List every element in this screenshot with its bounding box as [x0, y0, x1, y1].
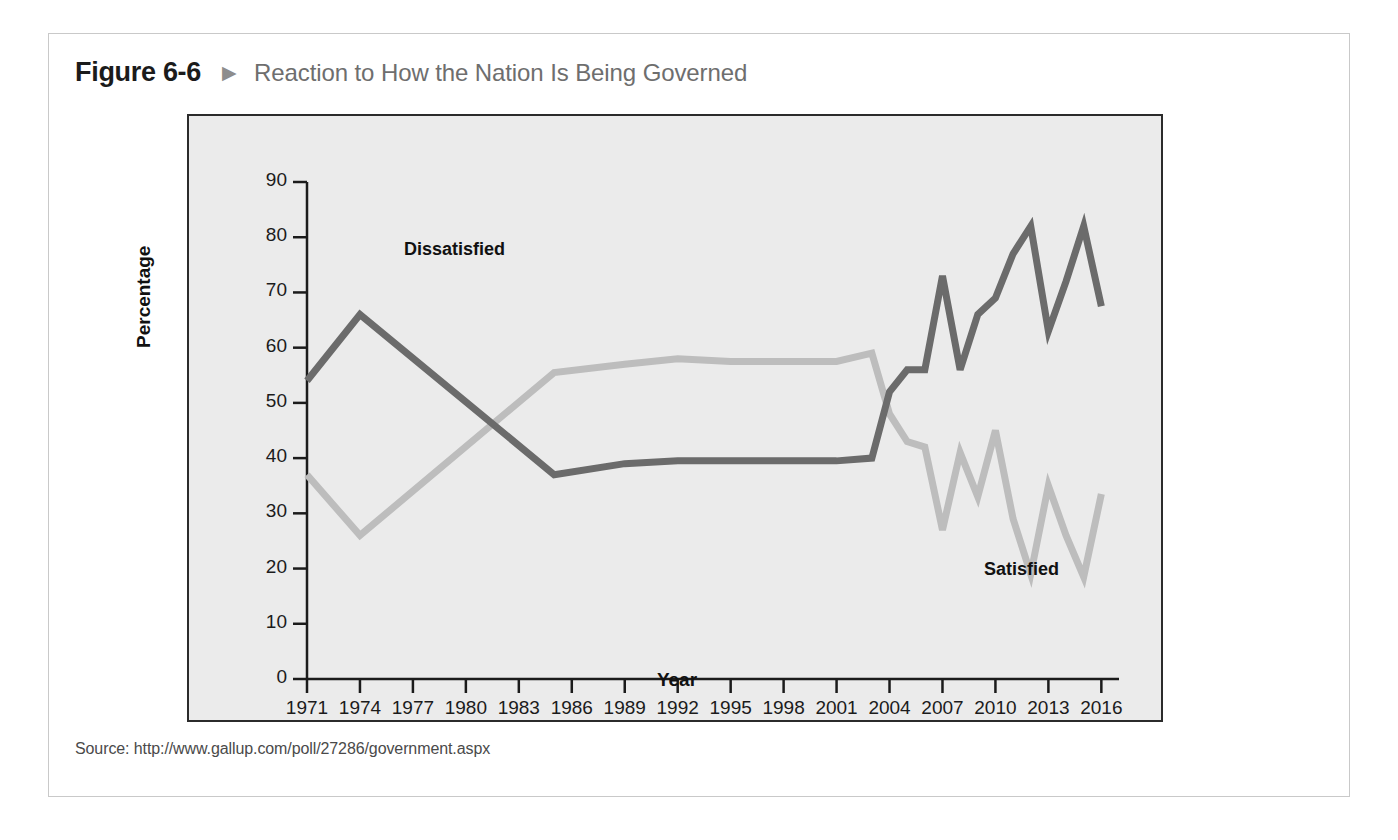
series-label-dissatisfied: Dissatisfied: [404, 239, 505, 260]
x-tick-label: 1992: [648, 697, 708, 719]
series-label-satisfied: Satisfied: [984, 559, 1059, 580]
x-tick-label: 1971: [277, 697, 337, 719]
x-axis-title: Year: [189, 669, 1165, 691]
x-tick-label: 1989: [595, 697, 655, 719]
y-tick-label: 0: [247, 666, 287, 688]
x-tick-label: 1995: [701, 697, 761, 719]
x-tick-label: 1974: [330, 697, 390, 719]
x-tick-label: 1977: [383, 697, 443, 719]
y-tick-label: 70: [247, 279, 287, 301]
y-tick-label: 30: [247, 500, 287, 522]
x-tick-label: 1983: [489, 697, 549, 719]
x-tick-label: 1998: [754, 697, 814, 719]
y-axis-title: Percentage: [133, 246, 155, 348]
y-tick-label: 10: [247, 611, 287, 633]
figure-title: Reaction to How the Nation Is Being Gove…: [254, 59, 747, 87]
y-tick-label: 50: [247, 390, 287, 412]
y-tick-label: 90: [247, 169, 287, 191]
chart-svg: [189, 116, 1161, 720]
figure-card: Figure 6-6 ▶ Reaction to How the Nation …: [48, 33, 1350, 797]
x-tick-label: 1986: [542, 697, 602, 719]
triangle-right-icon: ▶: [222, 61, 237, 84]
plot-area: Percentage Year Dissatisfied Satisfied 0…: [187, 114, 1163, 722]
x-tick-label: 1980: [436, 697, 496, 719]
x-tick-label: 2007: [912, 697, 972, 719]
series-line-dissatisfied: [307, 226, 1101, 475]
y-tick-label: 40: [247, 445, 287, 467]
x-tick-label: 2016: [1071, 697, 1131, 719]
figure-header: Figure 6-6 ▶ Reaction to How the Nation …: [75, 57, 747, 88]
x-tick-label: 2001: [807, 697, 867, 719]
y-tick-label: 20: [247, 556, 287, 578]
y-tick-label: 60: [247, 335, 287, 357]
series-line-satisfied: [307, 353, 1101, 577]
x-tick-label: 2013: [1018, 697, 1078, 719]
y-tick-label: 80: [247, 224, 287, 246]
figure-number: Figure 6-6: [75, 57, 201, 88]
x-tick-label: 2004: [860, 697, 920, 719]
x-tick-label: 2010: [965, 697, 1025, 719]
source-citation: Source: http://www.gallup.com/poll/27286…: [75, 740, 490, 758]
